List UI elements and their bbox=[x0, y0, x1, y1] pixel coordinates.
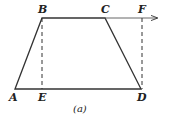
label-e: E bbox=[37, 91, 47, 104]
trapezoid-diagram: B C F A E D (a) bbox=[0, 0, 169, 114]
label-c: C bbox=[101, 3, 110, 16]
label-f: F bbox=[137, 3, 147, 16]
caption: (a) bbox=[73, 103, 87, 114]
trapezoid-abcd bbox=[15, 18, 141, 89]
label-b: B bbox=[37, 3, 47, 16]
label-d: D bbox=[136, 91, 147, 104]
label-a: A bbox=[8, 91, 18, 104]
